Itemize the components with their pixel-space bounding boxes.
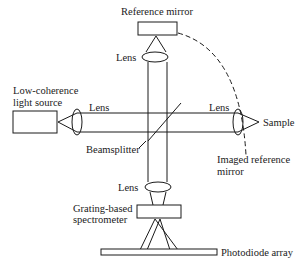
beamsplitter-label: Beamsplitter — [86, 144, 140, 155]
sample-label: Sample — [263, 117, 295, 128]
photodiode-array — [101, 249, 217, 255]
reference-mirror-label: Reference mirror — [121, 6, 194, 17]
lens-left-label: Lens — [89, 102, 109, 113]
imaged-reference-arc — [178, 33, 246, 155]
spectrometer-label-line1: Grating-based — [73, 203, 133, 214]
beamsplitter-pointer — [139, 141, 146, 148]
bottom-beam-left — [150, 192, 153, 205]
oct-diagram: Reference mirror Lens Low-coherence ligh… — [0, 0, 304, 270]
imaged-reference-label-line2: mirror — [217, 166, 244, 177]
dispersed-rays-outer — [140, 219, 178, 250]
imaged-reference-label-line1: Imaged reference — [217, 154, 290, 165]
source-cone — [58, 113, 77, 132]
low-coherence-light-source — [13, 111, 57, 133]
light-source-label-line2: light source — [13, 97, 63, 108]
photodiode-array-label: Photodiode array — [221, 247, 294, 258]
beamsplitter — [148, 103, 181, 141]
reference-mirror — [138, 22, 177, 35]
sample-focus-cone — [238, 113, 259, 132]
bottom-beam-right — [163, 192, 166, 205]
lens-bottom — [145, 182, 171, 192]
lens-top-label: Lens — [116, 52, 136, 63]
lens-bottom-label: Lens — [118, 182, 138, 193]
light-source-label-line1: Low-coherence — [13, 85, 79, 96]
lens-right-label: Lens — [209, 102, 229, 113]
top-focus-cone — [146, 36, 166, 52]
lens-top — [142, 52, 168, 62]
spectrometer-label-line2: spectrometer — [73, 214, 128, 225]
grating-based-spectrometer — [137, 205, 181, 218]
